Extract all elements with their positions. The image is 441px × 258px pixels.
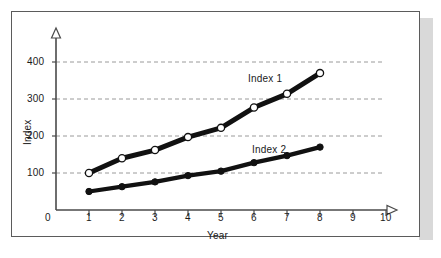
figure-root: 400 300 200 100 0 1 2 3 4 5 6 7 8 9 10 I… <box>0 0 441 258</box>
series-index-1-markers <box>85 70 323 177</box>
series-label-index-2: Index 2 <box>252 144 286 155</box>
data-point-marker <box>185 172 191 178</box>
data-point-marker <box>218 168 224 174</box>
x-tick-label-5: 5 <box>218 212 224 223</box>
data-point-marker <box>85 169 92 176</box>
data-point-marker <box>217 124 224 131</box>
data-point-marker <box>151 146 158 153</box>
series-index-2-markers <box>86 144 323 195</box>
x-tick-label-3: 3 <box>152 212 158 223</box>
x-tick-label-10: 10 <box>380 212 392 223</box>
x-axis-ticks <box>89 210 386 216</box>
series-index-1 <box>85 70 323 177</box>
series-label-index-1: Index 1 <box>248 73 282 84</box>
x-tick-label-7: 7 <box>284 212 290 223</box>
x-tick-label-2: 2 <box>119 212 125 223</box>
data-point-marker <box>152 179 158 185</box>
y-tick-label-0: 0 <box>45 212 51 223</box>
axes-group <box>52 28 398 215</box>
x-tick-label-1: 1 <box>86 212 92 223</box>
data-point-marker <box>316 70 323 77</box>
x-axis-title: Year <box>207 230 228 241</box>
x-tick-label-4: 4 <box>185 212 191 223</box>
x-tick-label-6: 6 <box>251 212 257 223</box>
data-point-marker <box>86 188 92 194</box>
y-axis-arrow-icon <box>52 28 61 38</box>
y-tick-label-100: 100 <box>27 167 44 178</box>
data-point-marker <box>250 104 257 111</box>
series-index-2 <box>86 144 323 195</box>
data-point-marker <box>118 155 125 162</box>
data-point-marker <box>283 90 290 97</box>
data-point-marker <box>317 144 323 150</box>
data-point-marker <box>119 183 125 189</box>
data-point-marker <box>251 159 257 165</box>
x-tick-label-9: 9 <box>350 212 356 223</box>
y-tick-label-400: 400 <box>27 56 44 67</box>
y-axis-title: Index <box>22 120 33 145</box>
data-point-marker <box>184 134 191 141</box>
x-tick-label-8: 8 <box>317 212 323 223</box>
gridlines-group <box>56 62 385 173</box>
y-tick-label-300: 300 <box>27 93 44 104</box>
